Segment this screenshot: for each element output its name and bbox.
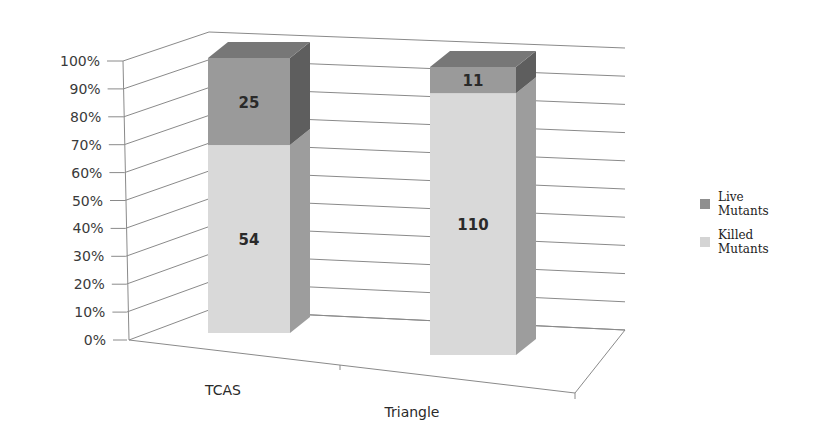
side-gridline (123, 60, 209, 89)
legend-label-killed: Killed Mutants (718, 228, 788, 256)
y-tick-label: 80% (70, 109, 101, 125)
side-gridline (123, 32, 209, 61)
legend-swatch-live (700, 199, 710, 209)
side-gridline (126, 227, 209, 257)
y-tick-label: 70% (71, 137, 102, 153)
legend-item-killed-mutants: Killed Mutants (700, 228, 820, 256)
y-tick-label: 0% (84, 332, 106, 348)
y-tick-label: 40% (72, 220, 103, 236)
chart-bars (208, 42, 536, 355)
legend-item-live-mutants: Live Mutants (700, 190, 820, 218)
y-tick-label: 10% (74, 304, 105, 320)
legend-swatch-killed (700, 237, 710, 247)
y-tick-label: 100% (60, 53, 100, 69)
side-gridline (125, 171, 209, 201)
y-tick-label: 20% (74, 276, 105, 292)
y-tick-label: 60% (71, 165, 102, 181)
bar-segment-side (290, 42, 310, 145)
side-gridline (127, 282, 209, 312)
y-tick-label: 50% (72, 193, 103, 209)
legend-label-live: Live Mutants (718, 190, 788, 218)
bar-segment-side (516, 77, 536, 355)
data-label: 11 (463, 72, 484, 90)
floor-outline (129, 310, 625, 393)
side-gridline (124, 115, 209, 144)
x-category-label: Triangle (384, 404, 440, 420)
x-category-label: TCAS (204, 382, 241, 398)
data-label: 54 (239, 231, 260, 249)
data-label: 25 (239, 94, 260, 112)
bar-segment-side (290, 129, 310, 333)
data-label: 110 (457, 216, 488, 234)
side-gridline (124, 88, 209, 117)
side-gridline (129, 310, 209, 340)
chart-axes: 0%10%20%30%40%50%60%70%80%90%100% (60, 32, 625, 399)
chart-legend: Live Mutants Killed Mutants (700, 190, 820, 266)
y-tick-label: 30% (73, 248, 104, 264)
side-gridline (125, 143, 209, 172)
y-tick-label: 90% (69, 81, 100, 97)
side-gridline (126, 254, 209, 284)
side-gridline (125, 199, 209, 229)
